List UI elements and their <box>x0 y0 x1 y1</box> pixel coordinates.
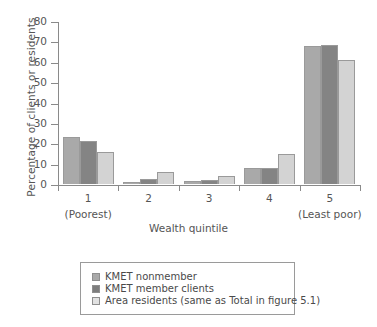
legend-item: KMET nonmember <box>92 271 285 282</box>
bar <box>244 168 261 184</box>
y-tick: 0 <box>51 185 58 186</box>
y-tick-label: 20 <box>34 137 47 149</box>
legend-label: Area residents (same as Total in figure … <box>105 295 320 306</box>
y-tick: 70 <box>51 42 58 43</box>
y-tick-label: 60 <box>34 56 47 68</box>
x-axis-label: 5(Least poor) <box>298 192 362 220</box>
x-axis-line <box>58 185 360 186</box>
bar <box>123 182 140 184</box>
x-axis-label-value: 5 <box>298 192 362 204</box>
y-tick: 20 <box>51 144 58 145</box>
x-tick <box>360 185 361 191</box>
x-axis-label: 3 <box>206 192 213 204</box>
chart-legend: KMET nonmemberKMET member clientsArea re… <box>80 262 295 315</box>
y-tick: 10 <box>51 165 58 166</box>
legend-label: KMET member clients <box>105 283 214 294</box>
y-tick-label: 80 <box>34 15 47 27</box>
y-tick-label: 0 <box>40 178 47 190</box>
x-axis-label-value: 1 <box>65 192 112 204</box>
bar <box>321 45 338 184</box>
bar-group <box>244 21 295 184</box>
x-tick <box>300 185 301 191</box>
legend-item: Area residents (same as Total in figure … <box>92 295 285 306</box>
x-tick <box>179 185 180 191</box>
x-axis-label: 2 <box>145 192 152 204</box>
x-axis-label: 4 <box>266 192 273 204</box>
bar-group <box>63 21 114 184</box>
y-axis-line <box>58 22 59 186</box>
y-tick: 30 <box>51 124 58 125</box>
y-tick: 60 <box>51 63 58 64</box>
y-tick-label: 40 <box>34 97 47 109</box>
plot-area: 01020304050607080 <box>58 22 360 185</box>
legend-swatch <box>92 297 100 305</box>
x-axis-label-sublabel: (Least poor) <box>298 208 362 220</box>
y-tick-label: 70 <box>34 35 47 47</box>
bar <box>338 60 355 184</box>
x-axis-label-value: 4 <box>266 192 273 204</box>
legend-label: KMET nonmember <box>105 271 197 282</box>
y-tick: 80 <box>51 22 58 23</box>
x-axis-label-sublabel: (Poorest) <box>65 208 112 220</box>
bar-group <box>123 21 174 184</box>
bar <box>63 137 80 184</box>
bar <box>278 154 295 184</box>
bar <box>80 141 97 184</box>
x-tick <box>58 185 59 191</box>
bar <box>304 46 321 184</box>
legend-swatch <box>92 285 100 293</box>
y-tick: 50 <box>51 83 58 84</box>
bar <box>97 152 114 184</box>
y-tick-label: 30 <box>34 117 47 129</box>
bar <box>261 168 278 184</box>
x-axis-label: 1(Poorest) <box>65 192 112 220</box>
bar <box>184 181 201 184</box>
bar <box>201 180 218 184</box>
bar <box>157 172 174 184</box>
x-axis-title: Wealth quintile <box>0 222 377 234</box>
legend-item: KMET member clients <box>92 283 285 294</box>
y-tick: 40 <box>51 104 58 105</box>
x-tick <box>239 185 240 191</box>
y-tick-label: 10 <box>34 158 47 170</box>
x-axis-label-value: 2 <box>145 192 152 204</box>
bar <box>140 179 157 185</box>
bar-chart-figure: Percentage of clients or residents 01020… <box>0 0 377 327</box>
bar-group <box>184 21 235 184</box>
bar-group <box>304 21 355 184</box>
bar <box>218 176 235 184</box>
x-tick <box>118 185 119 191</box>
legend-swatch <box>92 273 100 281</box>
x-axis-label-value: 3 <box>206 192 213 204</box>
y-tick-label: 50 <box>34 76 47 88</box>
